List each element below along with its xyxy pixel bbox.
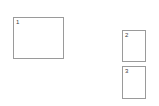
panel-3-label: 3 (125, 68, 128, 75)
panel-2[interactable]: 2 (122, 30, 146, 62)
panel-1-label: 1 (16, 19, 19, 26)
panel-3[interactable]: 3 (122, 66, 146, 99)
panel-2-label: 2 (125, 32, 128, 39)
panel-canvas: 1 2 3 (0, 0, 159, 106)
panel-1[interactable]: 1 (13, 17, 64, 59)
